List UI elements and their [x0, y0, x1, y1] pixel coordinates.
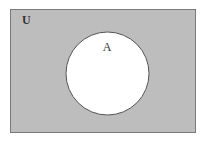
universe-label: U	[22, 13, 31, 27]
venn-diagram: U A	[0, 0, 206, 141]
set-a-label: A	[103, 40, 112, 54]
